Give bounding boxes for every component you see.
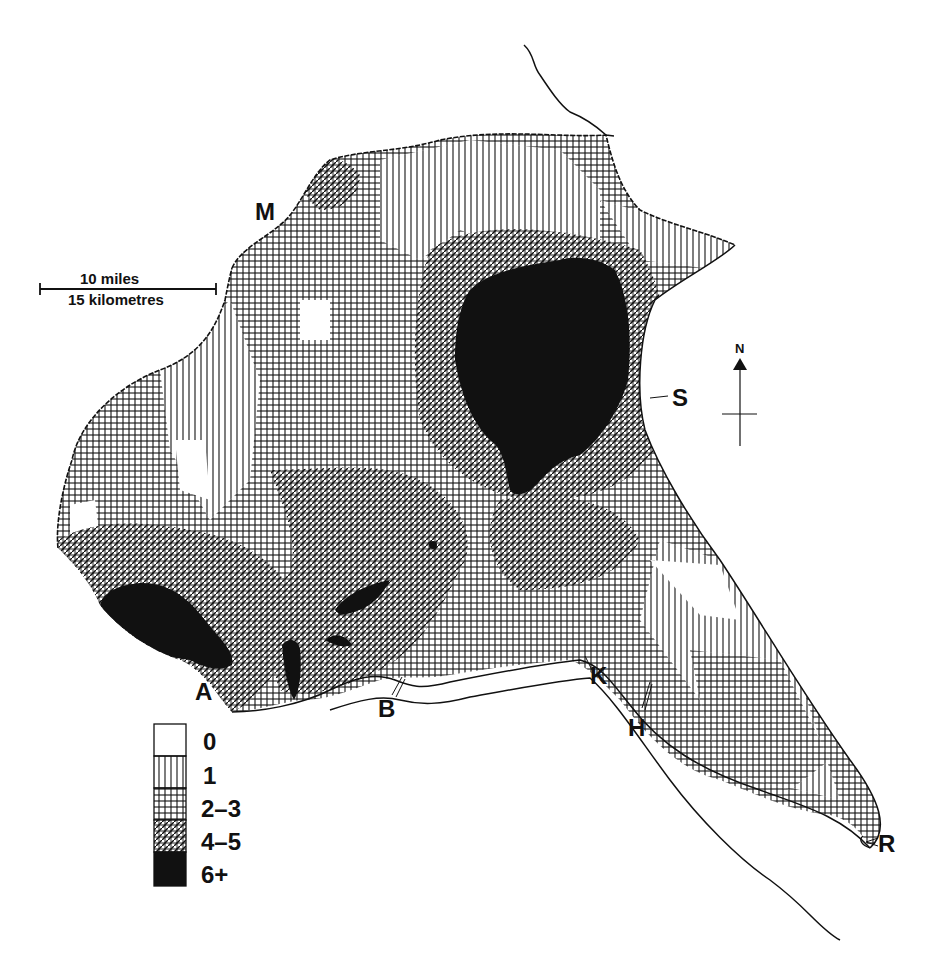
scale-km-label: 15 kilometres [68, 292, 164, 307]
place-label-b: B [378, 697, 395, 721]
legend-label-6-plus: 6+ [201, 863, 228, 887]
map-fill [0, 0, 927, 961]
legend-label-4-5: 4–5 [201, 830, 241, 854]
legend-label-0: 0 [203, 730, 216, 754]
hatched-map [0, 0, 927, 961]
legend [154, 724, 186, 886]
north-arrow [722, 358, 757, 446]
scale-miles-label: 10 miles [80, 271, 139, 286]
place-label-r: R [878, 832, 895, 856]
place-label-a: A [195, 680, 212, 704]
place-label-h: H [628, 716, 645, 740]
place-label-m: M [255, 200, 275, 224]
north-label: N [735, 342, 744, 355]
legend-label-1: 1 [203, 764, 216, 788]
northern-river [524, 45, 614, 136]
place-label-k: K [590, 664, 607, 688]
legend-label-2-3: 2–3 [201, 797, 241, 821]
place-label-s: S [672, 386, 688, 410]
